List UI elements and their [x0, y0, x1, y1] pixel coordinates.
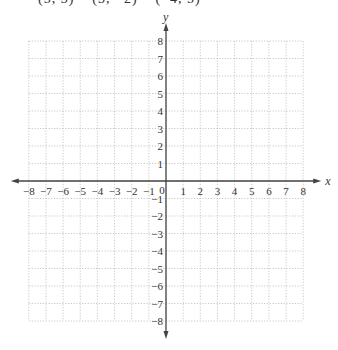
y-tick-label: −3 [151, 228, 163, 240]
y-tick-label: 6 [158, 70, 164, 82]
x-tick-label: −2 [126, 185, 138, 197]
x-tick-label: 2 [198, 185, 204, 197]
y-tick-label: −7 [151, 298, 163, 310]
x-tick-label: −7 [40, 185, 52, 197]
y-axis-label: y [162, 10, 169, 24]
x-tick-label: 8 [300, 185, 306, 197]
y-tick-label: 8 [158, 35, 164, 47]
x-tick-label: 4 [232, 185, 238, 197]
y-tick-label: −6 [151, 280, 163, 292]
x-tick-label: −4 [92, 185, 104, 197]
x-tick-label: −6 [57, 185, 69, 197]
y-tick-label: −2 [151, 210, 163, 222]
y-axis-arrow-up-icon [164, 23, 169, 31]
x-tick-label: −3 [109, 185, 121, 197]
x-axis-label: x [324, 174, 331, 188]
x-tick-label: 6 [266, 185, 272, 197]
y-tick-label: −8 [151, 315, 163, 327]
y-tick-label: 4 [158, 105, 164, 117]
y-tick-label: 7 [158, 53, 164, 65]
y-tick-label: 3 [158, 123, 164, 135]
y-tick-label: 5 [158, 88, 164, 100]
y-axis-arrow-down-icon [164, 331, 169, 339]
coordinate-plane: xy−8−7−6−5−4−3−2−1123456780−8−7−6−5−4−3−… [0, 0, 338, 350]
x-tick-label: 5 [249, 185, 255, 197]
x-axis-arrow-right-icon [313, 179, 321, 184]
y-tick-label: −4 [151, 245, 163, 257]
x-tick-label: −8 [23, 185, 35, 197]
y-tick-label: −5 [151, 263, 163, 275]
x-tick-label: 3 [215, 185, 221, 197]
y-tick-label: 1 [158, 158, 164, 170]
x-tick-label: −5 [74, 185, 86, 197]
x-axis-arrow-left-icon [11, 179, 19, 184]
x-tick-label: 1 [180, 185, 186, 197]
y-tick-label: −1 [151, 193, 163, 205]
x-tick-label: 7 [283, 185, 289, 197]
y-tick-label: 2 [158, 140, 164, 152]
